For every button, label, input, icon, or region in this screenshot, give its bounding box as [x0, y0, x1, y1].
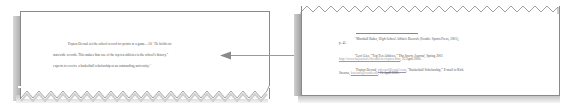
- footnote-2-line-2: http://www.hsjournal.edu/athletes/topten…: [339, 57, 422, 62]
- footnote-3-recipient-link[interactable]: kstearns@south.edu: [351, 71, 378, 75]
- body-text-line-3: expects to receive a basketball scholars…: [53, 59, 151, 72]
- footnote-1-line-2: p. 41.: [339, 41, 347, 46]
- footnote-1-line-1: 1Marshall Baker, High School Athletic Re…: [355, 35, 459, 42]
- right-page-torn-edge: [299, 2, 561, 16]
- footnote-3-line-2: Stearns, kstearns@south.edu, 15 April 20…: [339, 71, 399, 76]
- right-page-bottom-shadow: [298, 96, 560, 103]
- arrow-left-head-icon: [220, 51, 232, 60]
- left-page-torn-edge: [18, 86, 272, 102]
- footnote-separator-rule: [356, 33, 418, 34]
- footnote-2-url-link[interactable]: http://www.hsjournal.edu/athletes/topten…: [339, 57, 400, 61]
- footnotes-page-body: [301, 6, 560, 96]
